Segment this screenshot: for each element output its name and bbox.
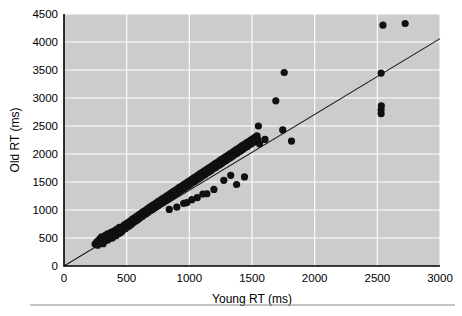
data-point	[173, 204, 180, 211]
data-point	[210, 186, 217, 193]
x-tick-label: 0	[61, 272, 67, 284]
data-point	[188, 196, 195, 203]
x-axis-title: Young RT (ms)	[212, 292, 292, 306]
y-tick-label: 500	[39, 232, 58, 244]
data-point	[279, 126, 286, 133]
y-tick-label: 1000	[32, 204, 58, 216]
y-tick-label: 1500	[32, 176, 58, 188]
data-point	[288, 138, 295, 145]
y-tick-label: 3500	[32, 64, 58, 76]
x-tick-label: 2500	[365, 272, 391, 284]
y-tick-label: 3000	[32, 92, 58, 104]
x-tick-label: 2000	[302, 272, 328, 284]
data-point	[402, 20, 409, 27]
y-tick-label: 2500	[32, 120, 58, 132]
x-tick-label: 1000	[177, 272, 203, 284]
data-point	[261, 136, 268, 143]
data-point	[220, 177, 227, 184]
data-point	[227, 172, 234, 179]
data-point	[180, 200, 187, 207]
young-vs-old-rt-scatter-chart: 0500100015002000250030003500400045000500…	[0, 0, 462, 316]
scatter-plot-figure: 0500100015002000250030003500400045000500…	[0, 0, 462, 316]
data-point	[378, 102, 385, 109]
data-point	[377, 69, 384, 76]
y-tick-label: 4000	[32, 36, 58, 48]
data-point	[379, 22, 386, 29]
data-point	[241, 173, 248, 180]
data-point	[199, 190, 206, 197]
data-point	[166, 206, 173, 213]
x-tick-label: 1500	[239, 272, 265, 284]
y-axis-tick-labels: 050010001500200025003000350040004500	[32, 8, 58, 272]
y-tick-label: 2000	[32, 148, 58, 160]
y-axis-title: Old RT (ms)	[8, 108, 22, 173]
data-point	[255, 122, 262, 129]
y-tick-label: 0	[52, 260, 58, 272]
data-point	[233, 181, 240, 188]
x-tick-label: 3000	[427, 272, 453, 284]
data-point	[272, 97, 279, 104]
data-point	[281, 69, 288, 76]
x-tick-label: 500	[117, 272, 136, 284]
y-tick-label: 4500	[32, 8, 58, 20]
x-axis-tick-labels: 050010001500200025003000	[61, 272, 453, 284]
